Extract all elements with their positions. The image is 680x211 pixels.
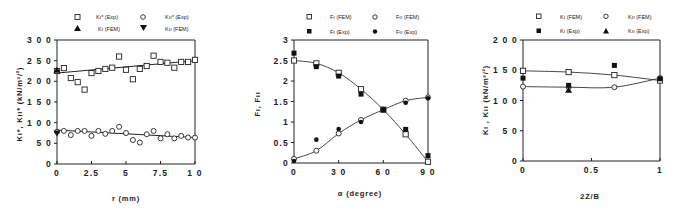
ticks: 05 01 0 01 5 02 0 02 5 03 0 002.557.51 0	[27, 35, 203, 178]
open-circle-marker	[124, 131, 129, 136]
open-square-marker	[103, 66, 108, 71]
filled-circle-marker	[314, 137, 319, 142]
open-square-marker	[158, 59, 163, 64]
open-square-marker	[520, 68, 525, 73]
open-square-marker	[358, 87, 363, 92]
open-square-marker	[151, 53, 156, 58]
open-square-marker	[192, 57, 197, 62]
open-square-marker	[566, 69, 571, 74]
open-circle-marker	[117, 124, 122, 129]
legend-label: Fı (Exp)	[330, 29, 350, 35]
filled-square-marker	[403, 127, 408, 132]
legend-label: Fıı (Exp)	[396, 29, 417, 35]
filled-square-marker	[658, 76, 663, 81]
y-tick-label: 1.5	[274, 97, 289, 107]
filled-triangle-up-icon	[603, 28, 609, 34]
filled-circle-marker	[336, 127, 341, 132]
chart-panel-2: Fı (FEM) Fıı (FEM) Fı (Exp) Fıı (Exp) Fı…	[230, 0, 460, 211]
axes	[523, 40, 660, 161]
legend-label: Kı* (Exp)	[96, 14, 118, 20]
open-circle-marker	[68, 133, 73, 138]
chart-panel-3: Kı (FEM) Kıı (FEM) Kı (Exp) Kıı (Exp) Kı…	[460, 0, 680, 211]
plot-area	[54, 53, 198, 145]
legend-label: Kı (FEM)	[560, 14, 582, 20]
filled-square-marker	[521, 76, 526, 81]
open-square-marker	[110, 65, 115, 70]
axes	[57, 40, 195, 164]
filled-square-icon	[537, 29, 542, 34]
y-tick-label: 2 0 0	[493, 35, 518, 45]
y-tick-label: 1 0 0	[493, 96, 518, 106]
filled-square-marker	[314, 64, 319, 69]
y-tick-label: 2	[283, 76, 289, 86]
open-square-icon	[307, 15, 312, 20]
open-square-marker	[89, 70, 94, 75]
open-square-marker	[130, 77, 135, 82]
open-circle-marker	[158, 136, 163, 141]
filled-square-marker	[292, 51, 297, 56]
ticks: 00.511.522.5303 06 09 0	[274, 35, 436, 177]
fem-curve	[523, 78, 660, 88]
open-circle-icon	[604, 14, 608, 18]
open-square-icon	[75, 15, 80, 20]
open-square-marker	[403, 132, 408, 137]
open-circle-marker	[151, 128, 156, 133]
legend-label: Fıı (FEM)	[396, 14, 419, 20]
open-circle-marker	[82, 128, 87, 133]
open-square-marker	[68, 75, 73, 80]
open-square-icon	[537, 14, 542, 19]
chart-1-svg: Kı* (Exp) Kıı* (Exp) Kı (FEM) Kıı (FEM) …	[0, 0, 230, 211]
filled-square-icon	[307, 29, 312, 34]
fem-curve	[523, 71, 660, 81]
x-tick-label: 9 0	[420, 167, 435, 177]
y-tick-label: 2 0 0	[27, 76, 52, 86]
x-tick-label: 1	[657, 165, 663, 175]
filled-square-marker	[336, 74, 341, 79]
open-square-marker	[291, 58, 296, 63]
legend-label: Kıı (FEM)	[165, 26, 189, 32]
filled-square-marker	[426, 153, 431, 158]
y-tick-label: 5 0	[37, 138, 52, 148]
open-square-marker	[96, 68, 101, 73]
legend-label: Fı (FEM)	[330, 14, 352, 20]
chart-3-svg: Kı (FEM) Kıı (FEM) Kı (Exp) Kıı (Exp) Kı…	[460, 0, 680, 211]
open-circle-marker	[96, 128, 101, 133]
chart-2-svg: Fı (FEM) Fıı (FEM) Fı (Exp) Fıı (Exp) Fı…	[230, 0, 460, 211]
filled-triangle-down-marker	[54, 131, 61, 137]
x-tick-label: 2.5	[84, 168, 99, 178]
open-circle-icon	[373, 15, 377, 19]
x-tick-label: 1 0	[187, 168, 202, 178]
x-tick-label: 6 0	[376, 167, 391, 177]
legend: Kı (FEM) Kıı (FEM) Kı (Exp) Kıı (Exp)	[537, 14, 652, 35]
filled-circle-marker	[359, 120, 364, 125]
x-tick-label: 0	[54, 168, 60, 178]
open-square-marker	[117, 54, 122, 59]
open-circle-marker	[336, 131, 341, 136]
y-tick-label: 3 0 0	[27, 35, 52, 45]
x-tick-label: 3 0	[331, 167, 346, 177]
legend-label: Kıı* (Exp)	[165, 14, 189, 20]
x-tick-label: 0	[291, 167, 297, 177]
open-circle-marker	[612, 85, 617, 90]
filled-circle-marker	[403, 100, 408, 105]
y-tick-label: 0	[512, 156, 518, 166]
y-axis-label: Kı*, Kıı* (kN/m³/²)	[15, 67, 24, 142]
legend: Fı (FEM) Fıı (FEM) Fı (Exp) Fıı (Exp)	[307, 14, 419, 35]
open-square-marker	[75, 80, 80, 85]
y-axis-label: Fı, Fıı	[253, 91, 262, 116]
open-square-marker	[172, 65, 177, 70]
open-circle-icon	[141, 15, 146, 20]
open-circle-marker	[172, 136, 177, 141]
y-tick-label: 2.5	[274, 56, 289, 66]
plot-area	[520, 63, 662, 93]
y-tick-label: 0.5	[274, 138, 289, 148]
y-tick-label: 1 0 0	[27, 118, 52, 128]
x-axis-label: α (degree)	[338, 189, 382, 198]
filled-square-marker	[612, 63, 617, 68]
filled-circle-marker	[381, 107, 386, 112]
open-circle-marker	[193, 135, 198, 140]
y-tick-label: 1	[283, 117, 289, 127]
open-square-marker	[179, 59, 184, 64]
x-axis-label: r (mm)	[112, 194, 140, 203]
x-tick-label: 7.5	[153, 168, 168, 178]
